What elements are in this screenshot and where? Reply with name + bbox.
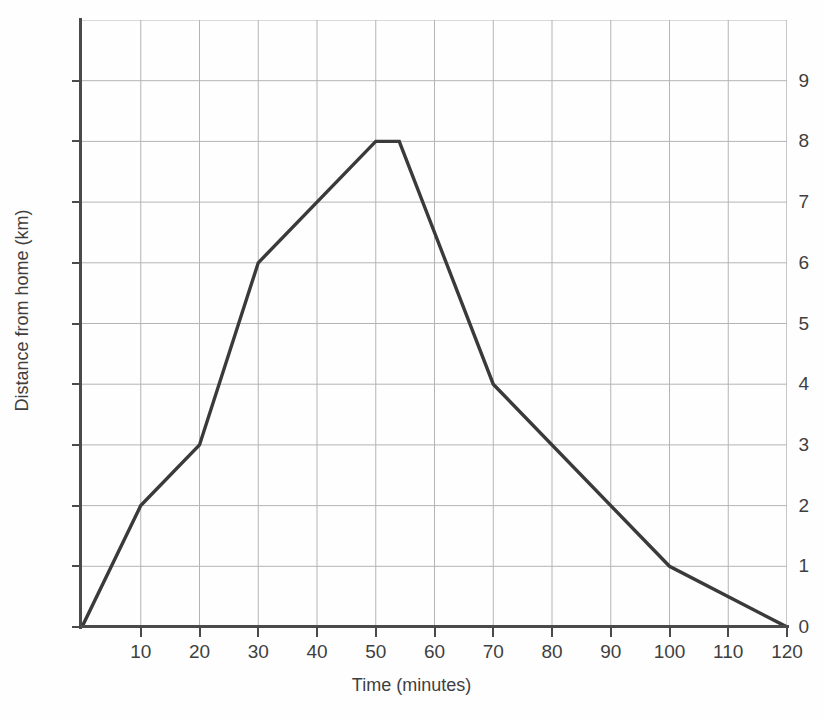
x-tick-label: 60 [424,641,445,663]
x-tick-label: 80 [541,641,562,663]
y-tick-label: 1 [761,555,823,577]
x-tick-mark [669,628,671,637]
x-tick-mark [492,628,494,637]
y-tick-label: 4 [761,373,823,395]
x-tick-label: 40 [306,641,327,663]
y-tick-mark [72,444,81,446]
plot-area [82,20,787,627]
y-tick-label: 2 [761,495,823,517]
y-axis-title: Distance from home (km) [12,51,33,571]
x-tick-mark [551,628,553,637]
y-tick-mark [72,323,81,325]
y-tick-mark [72,262,81,264]
chart-title [0,0,823,2]
y-tick-label: 0 [761,616,823,638]
x-axis-title: Time (minutes) [0,675,823,696]
x-tick-mark [199,628,201,637]
x-tick-label: 30 [248,641,269,663]
x-tick-label: 100 [654,641,686,663]
x-tick-label: 120 [771,641,803,663]
y-tick-mark [72,80,81,82]
x-tick-mark [257,628,259,637]
x-tick-mark [434,628,436,637]
distance-time-line-chart: 0123456789 102030405060708090100110120 D… [0,0,823,719]
x-tick-mark [786,628,788,637]
x-tick-mark [375,628,377,637]
x-tick-mark [316,628,318,637]
x-tick-label: 50 [365,641,386,663]
y-tick-mark [72,383,81,385]
grid-lines [82,20,787,627]
y-tick-label: 8 [761,130,823,152]
x-tick-mark [610,628,612,637]
y-tick-mark [72,201,81,203]
y-tick-mark [72,505,81,507]
y-tick-mark [72,565,81,567]
y-tick-mark [72,626,81,628]
x-tick-label: 10 [130,641,151,663]
y-tick-label: 9 [761,70,823,92]
x-tick-mark [727,628,729,637]
x-tick-label: 110 [713,641,743,663]
y-tick-mark [72,140,81,142]
x-tick-label: 90 [600,641,621,663]
x-tick-label: 70 [483,641,504,663]
y-tick-label: 5 [761,313,823,335]
y-tick-label: 3 [761,434,823,456]
plot-svg [82,20,787,627]
x-tick-mark [140,628,142,637]
x-tick-label: 20 [189,641,210,663]
y-tick-label: 6 [761,252,823,274]
y-tick-label: 7 [761,191,823,213]
